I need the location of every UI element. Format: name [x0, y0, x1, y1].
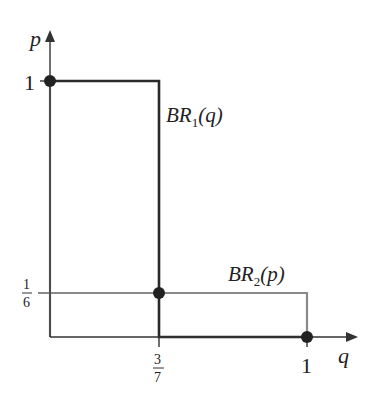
y-tick-label-1-6-den: 6	[23, 295, 30, 310]
br2-label: BR2(p)	[228, 262, 285, 289]
y-tick-label-1: 1	[24, 70, 35, 95]
x-tick-label-3-7-num: 3	[154, 352, 161, 367]
equilibrium-dot-1-0	[301, 331, 313, 343]
y-tick-label-1-6-num: 1	[23, 277, 30, 292]
x-axis-arrow-icon	[346, 332, 358, 342]
y-axis-arrow-icon	[45, 30, 55, 42]
x-tick-label-1: 1	[301, 353, 312, 378]
axes	[40, 42, 350, 347]
x-tick-label-3-7-den: 7	[154, 370, 161, 385]
best-response-diagram: p q 1 1 6 3 7 1 BR1(q) BR2(p)	[0, 0, 370, 403]
equilibrium-dot-0-1	[44, 75, 56, 87]
y-axis-label: p	[28, 26, 41, 51]
x-axis-label: q	[338, 343, 349, 368]
equilibrium-dot-3-7-1-6	[153, 287, 165, 299]
br1-label: BR1(q)	[166, 103, 223, 130]
